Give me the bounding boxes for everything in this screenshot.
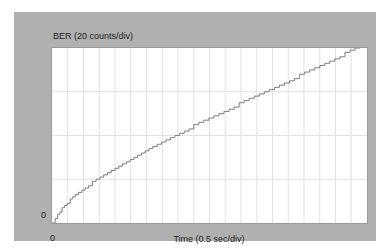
ber-trace — [52, 48, 367, 223]
chart-screenshot: BER (20 counts/div) 0 0 Time (0.5 sec/di… — [0, 0, 390, 248]
instrument-panel: BER (20 counts/div) 0 0 Time (0.5 sec/di… — [14, 12, 376, 241]
x-axis-title: Time (0.5 sec/div) — [14, 234, 390, 245]
plot-area — [51, 47, 368, 224]
y-axis-title: BER (20 counts/div) — [53, 31, 133, 42]
y-axis-origin-label: 0 — [41, 210, 46, 221]
